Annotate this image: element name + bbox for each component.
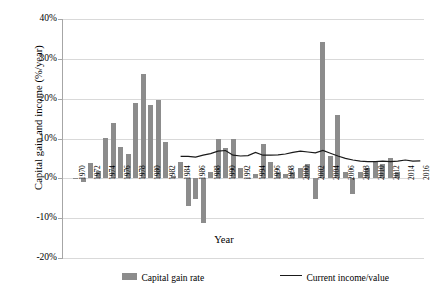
x-tick-label: 1980 xyxy=(154,166,161,181)
y-tick-label: 40% xyxy=(17,14,57,23)
y-tick-label: 10% xyxy=(17,134,57,143)
x-tick-label: 1982 xyxy=(169,166,176,181)
x-tick-label: 2012 xyxy=(393,166,400,181)
y-tick-label: 20% xyxy=(17,94,57,103)
legend-label-capital-gain-rate: Capital gain rate xyxy=(141,273,204,283)
bar-swatch-icon xyxy=(122,273,137,280)
legend: Capital gain rate Current income/value xyxy=(0,272,448,290)
y-tick-label: 0% xyxy=(17,173,57,182)
y-tick-mark xyxy=(58,258,63,259)
y-tick-label: -20% xyxy=(17,253,57,262)
x-tick-label: 2016 xyxy=(423,166,430,181)
x-tick-label: 2008 xyxy=(363,166,370,181)
x-tick-label: 1998 xyxy=(288,166,295,181)
legend-label-current-income-value: Current income/value xyxy=(306,273,389,283)
x-tick-label: 1974 xyxy=(109,166,116,181)
chart-container: Capital gain and income (%/year) Year 40… xyxy=(0,0,448,299)
x-tick-label: 1984 xyxy=(184,166,191,181)
x-tick-label: 1972 xyxy=(94,166,101,181)
line-swatch-icon xyxy=(280,275,302,276)
x-tick-label: 2000 xyxy=(303,166,310,181)
x-tick-label: 2002 xyxy=(318,166,325,181)
plot-area: 40%30%20%10%0%-10%-20% 19701972197419761… xyxy=(62,19,424,258)
x-tick-label: 2006 xyxy=(348,166,355,181)
x-tick-label: 1990 xyxy=(229,166,236,181)
x-tick-label: 1976 xyxy=(124,166,131,181)
x-tick-label: 1986 xyxy=(199,166,206,181)
x-tick-label: 1994 xyxy=(259,166,266,181)
x-axis-ticks: 1970197219741976197819801982198419861988… xyxy=(62,19,424,258)
y-tick-label: -10% xyxy=(17,213,57,222)
x-tick-label: 1988 xyxy=(214,166,221,181)
x-tick-label: 2010 xyxy=(378,166,385,181)
x-tick-label: 1970 xyxy=(79,166,86,181)
y-axis-title: Capital gain and income (%/year) xyxy=(33,18,44,218)
x-tick-label: 1978 xyxy=(139,166,146,181)
x-tick-label: 2004 xyxy=(333,166,340,181)
legend-entry-current-income-value: Current income/value xyxy=(280,272,389,283)
x-tick-label: 2014 xyxy=(408,166,415,181)
x-tick-label: 1996 xyxy=(274,166,281,181)
gridline xyxy=(62,258,424,259)
y-tick-label: 30% xyxy=(17,54,57,63)
x-tick-label: 1992 xyxy=(244,166,251,181)
legend-entry-capital-gain-rate: Capital gain rate xyxy=(122,272,204,283)
